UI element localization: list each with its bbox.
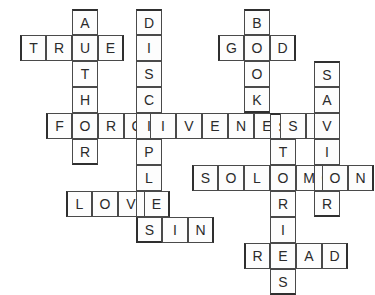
crossword-cell-k-244-87[interactable]: K <box>244 87 270 113</box>
crossword-cell-a-314-87[interactable]: A <box>314 87 340 113</box>
crossword-cell-s-136-217[interactable]: S <box>136 217 162 243</box>
crossword-cell-n-188-217[interactable]: N <box>188 217 214 243</box>
crossword-cell-l-66-191[interactable]: L <box>66 191 92 217</box>
crossword-cell-a-72-9[interactable]: A <box>72 9 98 35</box>
crossword-cell-e-202-113[interactable]: E <box>202 113 228 139</box>
crossword-cell-o-270-165[interactable]: O <box>270 165 296 191</box>
crossword-cell-t-72-61[interactable]: T <box>72 61 98 87</box>
crossword-cell-h-72-87[interactable]: H <box>72 87 98 113</box>
crossword-cell-i-314-139[interactable]: I <box>314 139 340 165</box>
crossword-cell-d-136-9[interactable]: D <box>136 9 162 35</box>
crossword-cell-i-270-217[interactable]: I <box>270 217 296 243</box>
crossword-cell-o-72-113[interactable]: O <box>72 113 98 139</box>
crossword-cell-v-314-113[interactable]: V <box>314 113 340 139</box>
crossword-cell-n-348-165[interactable]: N <box>348 165 374 191</box>
crossword-cell-e-144-191[interactable]: E <box>144 191 170 217</box>
crossword-cell-s-314-61[interactable]: S <box>314 61 340 87</box>
crossword-cell-t-20-35[interactable]: T <box>20 35 46 61</box>
crossword-cell-o-244-35[interactable]: O <box>244 35 270 61</box>
crossword-cell-u-72-35[interactable]: U <box>72 35 98 61</box>
crossword-cell-i-150-113[interactable]: I <box>150 113 176 139</box>
crossword-cell-c-136-87[interactable]: C <box>136 87 162 113</box>
crossword-cell-i-136-35[interactable]: I <box>136 35 162 61</box>
crossword-cell-s-280-113[interactable]: S <box>280 113 306 139</box>
crossword-cell-o-322-165[interactable]: O <box>322 165 348 191</box>
crossword-cell-l-136-165[interactable]: L <box>136 165 162 191</box>
crossword-cell-f-46-113[interactable]: F <box>46 113 72 139</box>
crossword-cell-a-296-243[interactable]: A <box>296 243 322 269</box>
crossword-cell-r-98-113[interactable]: R <box>98 113 124 139</box>
crossword-cell-r-314-191[interactable]: R <box>314 191 340 217</box>
crossword-cell-p-136-139[interactable]: P <box>136 139 162 165</box>
crossword-cell-s-192-165[interactable]: S <box>192 165 218 191</box>
crossword-cell-o-218-165[interactable]: O <box>218 165 244 191</box>
crossword-cell-s-270-269[interactable]: S <box>270 269 296 295</box>
crossword-cell-g-218-35[interactable]: G <box>218 35 244 61</box>
crossword-cell-b-244-9[interactable]: B <box>244 9 270 35</box>
crossword-cell-r-72-139[interactable]: R <box>72 139 98 165</box>
crossword-cell-r-244-243[interactable]: R <box>244 243 270 269</box>
crossword-cell-n-228-113[interactable]: N <box>228 113 254 139</box>
crossword-cell-e-270-243[interactable]: E <box>270 243 296 269</box>
crossword-cell-r-46-35[interactable]: R <box>46 35 72 61</box>
crossword-cell-o-244-61[interactable]: O <box>244 61 270 87</box>
crossword-cell-d-270-35[interactable]: D <box>270 35 296 61</box>
crossword-cell-r-270-191[interactable]: R <box>270 191 296 217</box>
crossword-cell-v-176-113[interactable]: V <box>176 113 202 139</box>
crossword-cell-d-322-243[interactable]: D <box>322 243 348 269</box>
crossword-cell-s-136-61[interactable]: S <box>136 61 162 87</box>
crossword-cell-i-162-217[interactable]: I <box>162 217 188 243</box>
crossword-cell-o-92-191[interactable]: O <box>92 191 118 217</box>
crossword-cell-e-98-35[interactable]: E <box>98 35 124 61</box>
crossword-cell-l-244-165[interactable]: L <box>244 165 270 191</box>
crossword-cell-t-270-139[interactable]: T <box>270 139 296 165</box>
